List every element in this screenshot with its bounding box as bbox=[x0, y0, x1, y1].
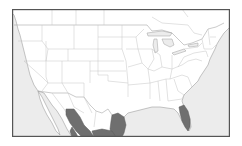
range-map bbox=[12, 9, 230, 137]
map-svg bbox=[12, 9, 230, 137]
